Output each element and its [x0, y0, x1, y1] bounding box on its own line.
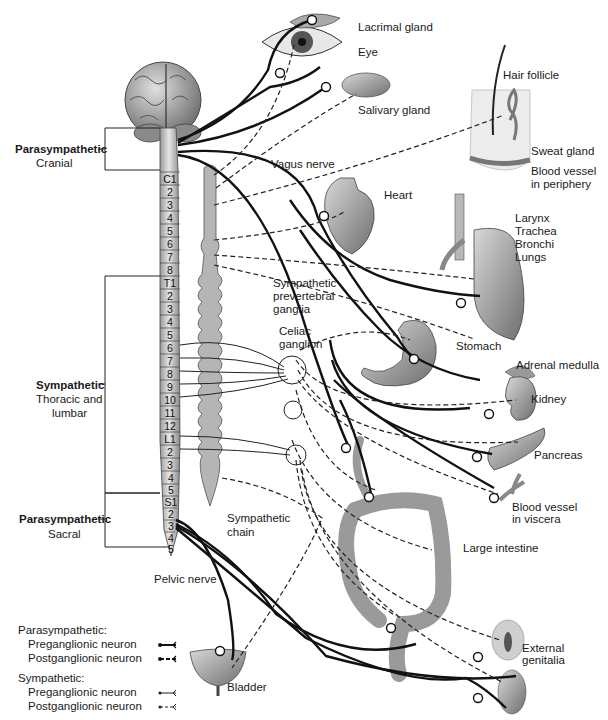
vertebra-label: 2 [159, 186, 181, 198]
division-parasympathetic-cranial-title: Parasympathetic [15, 142, 107, 156]
vertebra-label: 2 [160, 508, 182, 520]
legend-dashed-thin-line-icon [158, 703, 180, 711]
vertebra-label: 3 [159, 199, 181, 211]
label-blood-vessel-viscera-2: in viscera [512, 512, 561, 526]
label-eye: Eye [358, 45, 378, 59]
label-larynx: Larynx [515, 211, 550, 225]
label-adrenal-medulla: Adrenal medulla [516, 358, 599, 372]
vertebra-label: 3 [159, 459, 181, 471]
label-pelvic-nerve: Pelvic nerve [154, 572, 217, 586]
vertebra-label: 7 [159, 355, 181, 367]
celiac-ganglion [278, 356, 306, 384]
vertebra-label: 5 [160, 484, 182, 496]
legend-solid-thin-line-icon [158, 689, 180, 697]
label-kidney: Kidney [531, 392, 566, 406]
vertebra-label: T1 [159, 277, 181, 289]
label-prevertebral-3: ganglia [273, 302, 310, 316]
label-pancreas: Pancreas [534, 448, 583, 462]
vertebra-label: 3 [160, 520, 182, 532]
vertebra-label: 4 [159, 316, 181, 328]
vertebra-label: 7 [159, 251, 181, 263]
label-blood-vessel-periphery-1: Blood vessel [531, 164, 596, 178]
label-prevertebral-2: prevertebral [273, 289, 334, 303]
vertebra-label: 3 [159, 303, 181, 315]
vertebra-label: 2 [159, 446, 181, 458]
legend: Parasympathetic: Preganglionic neuron Po… [18, 624, 180, 714]
chain-to-ganglia-fibers [180, 343, 290, 455]
division-parasympathetic-sacral-title: Parasympathetic [19, 512, 111, 526]
vertebra-label: 4 [160, 472, 182, 484]
legend-dashed-thick-line-icon [158, 655, 180, 663]
legend-heading-sympathetic: Sympathetic: [18, 672, 180, 686]
label-bladder: Bladder [227, 680, 267, 694]
label-celiac-2: ganglion [279, 337, 322, 351]
vertebra-label: L1 [159, 433, 181, 445]
vertebra-label: 6 [159, 238, 181, 250]
label-sympathetic-chain-2: chain [227, 525, 255, 539]
sympathetic-chain [198, 165, 222, 506]
vertebra-label: 4 [159, 212, 181, 224]
vertebra-label: C1 [159, 173, 181, 185]
division-sympathetic-subtitle-2: lumbar [52, 406, 87, 420]
superior-mesenteric-ganglion [284, 401, 302, 419]
vertebra-label: 11 [159, 407, 181, 419]
label-blood-vessel-periphery-2: in periphery [531, 177, 591, 191]
division-sympathetic-title: Sympathetic [36, 378, 104, 392]
vertebra-label: 8 [159, 368, 181, 380]
label-sympathetic-chain-1: Sympathetic [227, 511, 290, 525]
label-lacrimal-gland: Lacrimal gland [358, 20, 433, 34]
vertebra-label: 6 [159, 342, 181, 354]
vertebra-label: 8 [159, 264, 181, 276]
salivary-gland [342, 73, 390, 97]
vertebra-label: 5 [159, 329, 181, 341]
label-prevertebral-1: Sympathetic [273, 276, 336, 290]
legend-solid-thick-line-icon [158, 641, 180, 649]
division-parasympathetic-cranial-subtitle: Cranial [36, 156, 72, 170]
legend-sympathetic-pre-label: Preganglionic neuron [18, 686, 154, 700]
division-sympathetic-subtitle-1: Thoracic and [36, 392, 102, 406]
legend-sympathetic-post-label: Postganglionic neuron [18, 700, 154, 714]
label-salivary-gland: Salivary gland [358, 103, 430, 117]
prevertebral-ganglia [278, 356, 306, 465]
division-parasympathetic-sacral-subtitle: Sacral [48, 527, 81, 541]
label-lungs: Lungs [515, 250, 546, 264]
vertebra-label: 2 [159, 290, 181, 302]
label-heart: Heart [384, 188, 412, 202]
label-vagus-nerve: Vagus nerve [271, 157, 335, 171]
vertebra-label: 5 [160, 543, 182, 555]
vertebra-label: 10 [159, 394, 181, 406]
skin-hair-follicle [470, 45, 530, 170]
vertebra-label: 9 [159, 381, 181, 393]
legend-heading-parasympathetic: Parasympathetic: [18, 624, 180, 638]
label-external-genitalia-2: genitalia [522, 653, 565, 667]
label-bronchi: Bronchi [515, 237, 554, 251]
label-large-intestine: Large intestine [463, 541, 538, 555]
legend-parasympathetic-pre-label: Preganglionic neuron [18, 638, 154, 652]
vertebra-label: S1 [160, 496, 182, 508]
vertebra-label: 5 [159, 225, 181, 237]
lungs-trachea [442, 194, 524, 340]
vertebra-label: 12 [159, 420, 181, 432]
blood-vessel-viscera [500, 474, 524, 500]
label-trachea: Trachea [515, 224, 557, 238]
legend-parasympathetic-post-label: Postganglionic neuron [18, 652, 154, 666]
label-sweat-gland: Sweat gland [531, 144, 594, 158]
label-celiac-1: Celiac [279, 324, 311, 338]
stomach [361, 320, 436, 386]
label-stomach: Stomach [456, 339, 501, 353]
parasympathetic-pathways [176, 20, 516, 708]
label-hair-follicle: Hair follicle [503, 68, 559, 82]
